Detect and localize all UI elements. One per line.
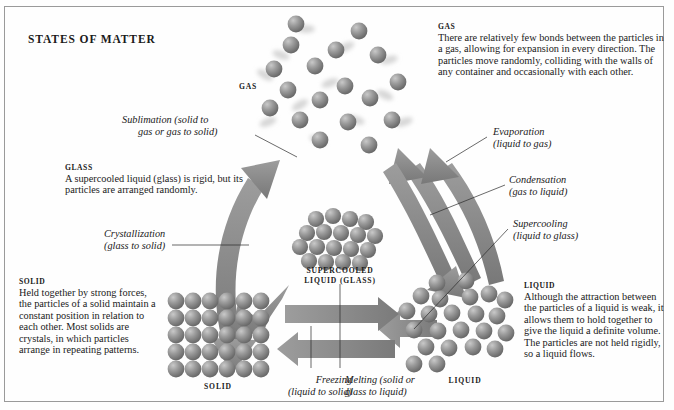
supercooled-state-label: SUPERCOOLED LIQUID (GLASS) [280, 266, 400, 286]
evaporation-label-line1: Evaporation [493, 126, 623, 138]
condensation-label: Condensation (gas to liquid) [509, 174, 639, 198]
condensation-label-line1: Condensation [509, 174, 639, 186]
sublimation-label-line1: Sublimation (solid to [122, 114, 272, 126]
freezing-label-line1: Freezing [256, 374, 352, 386]
gas-state-label: GAS [228, 82, 268, 92]
freezing-label: Freezing (liquid to solid) [256, 374, 352, 398]
liquid-state-label: LIQUID [435, 376, 495, 386]
gas-description-heading: GAS [438, 22, 666, 32]
crystallization-label-line2: (glass to solid) [104, 240, 244, 252]
liquid-description: LIQUID Although the attraction between t… [524, 281, 664, 360]
melting-arrow [285, 297, 399, 331]
freezing-label-line2: (liquid to solid) [256, 386, 352, 398]
solid-state-label: SOLID [188, 382, 248, 392]
page-title: STATES OF MATTER [28, 33, 156, 45]
supercooled-liquid-particle-cluster [292, 208, 383, 271]
solid-description: SOLID Held together by strong forces, th… [19, 277, 159, 356]
supercooled-state-label-line2: LIQUID (GLASS) [280, 276, 400, 286]
supercooling-label: Supercooling (liquid to glass) [513, 218, 643, 242]
glass-description: GLASS A supercooled liquid (glass) is ri… [65, 163, 245, 196]
gas-description: GAS There are relatively few bonds betwe… [438, 22, 666, 78]
melting-label-line2: glass to liquid) [345, 386, 475, 398]
supercooled-state-label-line1: SUPERCOOLED [280, 266, 400, 276]
solid-description-body: Held together by strong forces, the part… [19, 287, 156, 356]
sublimation-label: Sublimation (solid to gas or gas to soli… [122, 114, 272, 138]
gas-description-body: There are relatively few bonds between t… [438, 32, 664, 78]
crystallization-label: Crystallization (glass to solid) [104, 228, 244, 252]
supercooling-label-line1: Supercooling [513, 218, 643, 230]
glass-description-heading: GLASS [65, 163, 245, 173]
condensation-label-line2: (gas to liquid) [509, 186, 639, 198]
liquid-description-heading: LIQUID [524, 281, 664, 291]
liquid-description-body: Although the attraction between the part… [524, 291, 664, 360]
supercooling-label-line2: (liquid to glass) [513, 230, 643, 242]
sublimation-leader-line [255, 135, 297, 157]
sublimation-label-line2: gas or gas to solid) [122, 126, 272, 138]
crystallization-label-line1: Crystallization [104, 228, 244, 240]
glass-description-body: A supercooled liquid (glass) is rigid, b… [65, 173, 243, 196]
evaporation-label: Evaporation (liquid to gas) [493, 126, 623, 150]
evaporation-label-line2: (liquid to gas) [493, 138, 623, 150]
evaporation-leader-line [446, 137, 487, 162]
solid-description-heading: SOLID [19, 277, 159, 287]
states-of-matter-diagram: STATES OF MATTER GAS There are relativel… [0, 0, 674, 410]
freezing-arrow [277, 332, 395, 366]
